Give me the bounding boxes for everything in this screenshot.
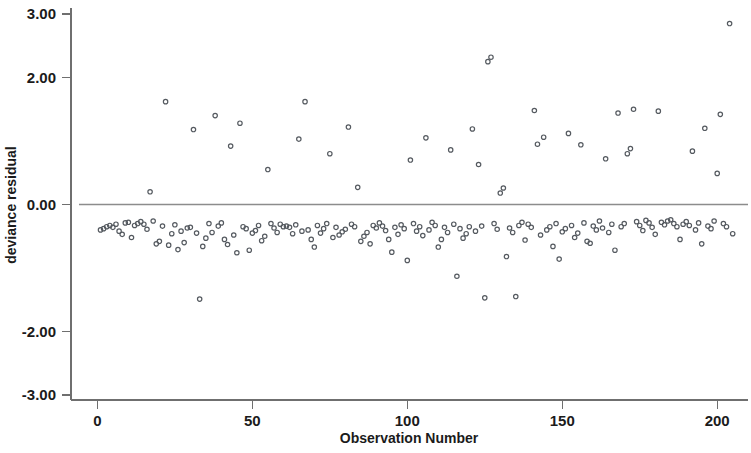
y-axis-tick-labels: 3.002.000.00-2.00-3.00 [22,5,56,403]
data-point [157,239,161,243]
data-point [194,231,198,235]
y-tick-label: 3.00 [27,5,56,22]
data-point [455,274,459,278]
data-point [148,190,152,194]
data-point [715,171,719,175]
data-point [210,230,214,234]
data-point [166,243,170,247]
data-point [594,228,598,232]
data-point [551,244,555,248]
data-point [439,237,443,241]
data-point [272,226,276,230]
data-point [160,224,164,228]
data-point [514,294,518,298]
data-point [213,113,217,117]
y-tick-label: 0.00 [27,196,56,213]
data-point [498,191,502,195]
x-tick-label: 150 [550,412,575,429]
data-point [356,185,360,189]
data-point [263,234,267,238]
data-point [563,226,567,230]
y-axis-ticks [62,14,71,395]
data-point [641,228,645,232]
data-point [731,232,735,236]
data-point [476,162,480,166]
data-point [421,233,425,237]
data-point [204,236,208,240]
data-point [569,223,573,227]
data-point [374,226,378,230]
data-point [483,296,487,300]
data-point [359,239,363,243]
data-point [622,221,626,225]
data-point [219,221,223,225]
data-point [405,258,409,262]
data-point [523,238,527,242]
data-point [479,224,483,228]
data-point [321,226,325,230]
data-point [600,226,604,230]
data-point [703,126,707,130]
y-tick-label: -3.00 [22,386,56,403]
data-point [461,236,465,240]
x-tick-label: 50 [244,412,261,429]
data-point [576,231,580,235]
data-point [163,99,167,103]
data-point [597,219,601,223]
data-point [442,225,446,229]
data-point [228,144,232,148]
data-point [201,244,205,248]
data-point [173,223,177,227]
data-point [690,149,694,153]
data-point [675,225,679,229]
data-point [687,223,691,227]
data-point [427,228,431,232]
data-point [628,146,632,150]
data-point [300,229,304,233]
data-point [724,225,728,229]
data-point [182,240,186,244]
data-point [256,223,260,227]
data-point [433,223,437,227]
data-point [541,135,545,139]
data-point [424,136,428,140]
data-point [343,227,347,231]
data-point [727,21,731,25]
x-tick-label: 0 [93,412,101,429]
data-point [352,225,356,229]
data-point [535,142,539,146]
data-point [510,230,514,234]
data-point [275,230,279,234]
x-axis-title: Observation Number [340,430,479,446]
data-point [312,245,316,249]
data-point [328,152,332,156]
data-point [325,221,329,225]
data-point [142,222,146,226]
data-point [232,233,236,237]
data-point [486,59,490,63]
data-point [452,222,456,226]
data-point [616,111,620,115]
data-point [492,221,496,225]
data-point [120,232,124,236]
x-axis-ticks [97,400,717,409]
data-point [418,225,422,229]
x-tick-label: 100 [395,412,420,429]
data-point [603,157,607,161]
data-point [269,221,273,225]
data-point [408,158,412,162]
data-point [718,112,722,116]
data-point [501,186,505,190]
data-point [303,99,307,103]
data-point [383,228,387,232]
data-point [170,232,174,236]
data-point [582,221,586,225]
data-point [331,235,335,239]
data-point [368,242,372,246]
data-point [318,231,322,235]
data-point [396,232,400,236]
x-axis-tick-labels: 050100150200 [93,412,729,429]
data-point [411,221,415,225]
data-point [179,229,183,233]
data-point [414,229,418,233]
